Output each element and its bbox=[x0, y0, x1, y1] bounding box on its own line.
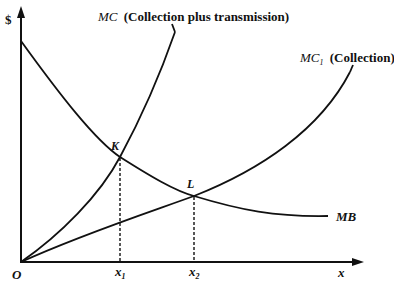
mc-label: MC (Collection plus transmission) bbox=[97, 9, 289, 24]
mc1-curve bbox=[21, 72, 350, 262]
mc1-label-name: MC bbox=[299, 50, 320, 65]
diagram: $ O x MC (Collection plus transmission) … bbox=[0, 0, 394, 284]
mc-label-desc: (Collection plus transmission) bbox=[124, 9, 289, 24]
x2-label-sub: 2 bbox=[195, 272, 200, 281]
mc1-label-desc: (Collection) bbox=[330, 50, 394, 65]
mc1-leader-line bbox=[350, 65, 353, 72]
x-axis-label: x bbox=[337, 265, 345, 280]
mc-leader-line bbox=[172, 24, 175, 32]
y-axis-label: $ bbox=[5, 12, 12, 27]
mb-curve bbox=[21, 41, 328, 216]
x1-label: x1 bbox=[114, 264, 126, 281]
mc1-label-sub: 1 bbox=[320, 58, 324, 67]
origin-label: O bbox=[12, 267, 22, 282]
mc-label-name: MC bbox=[97, 9, 118, 24]
mb-label: MB bbox=[335, 209, 357, 224]
y-axis-arrow-icon bbox=[17, 6, 25, 18]
x-axis-arrow-icon bbox=[352, 258, 364, 266]
x2-label: x2 bbox=[188, 264, 200, 281]
mc1-label: MC1 (Collection) bbox=[299, 50, 394, 68]
point-l-label: L bbox=[186, 177, 194, 191]
point-k-label: K bbox=[110, 139, 120, 153]
x1-label-sub: 1 bbox=[122, 272, 126, 281]
mc-curve bbox=[21, 32, 175, 262]
